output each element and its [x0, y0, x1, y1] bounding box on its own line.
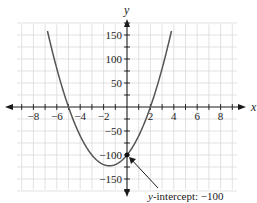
y-axis-down-arrow-icon — [124, 189, 130, 197]
parabola-curve — [47, 31, 171, 166]
y-tick-label: −150 — [99, 173, 122, 185]
x-tick-label: 4 — [171, 110, 177, 122]
axes — [5, 19, 246, 197]
x-tick-label: −2 — [98, 110, 110, 122]
x-tick-label: −4 — [74, 110, 86, 122]
x-axis-left-arrow-icon — [5, 104, 13, 110]
y-tick-label: −50 — [105, 125, 123, 137]
y-tick-label: 50 — [111, 77, 123, 89]
y-axis-label: y — [123, 3, 130, 17]
x-tick-label: −8 — [28, 110, 40, 122]
y-tick-label: 100 — [106, 53, 123, 65]
parabola-chart: −8−6−4−2246815010050−50−100−150 y-interc… — [0, 0, 257, 203]
y-tick-label: −100 — [99, 149, 122, 161]
y-intercept-point — [125, 153, 130, 158]
x-tick-label: 6 — [194, 110, 200, 122]
x-axis-right-arrow-icon — [238, 104, 246, 110]
annotation-leader-line — [130, 158, 158, 188]
x-axis-label: x — [250, 100, 257, 114]
x-tick-label: −6 — [51, 110, 63, 122]
x-tick-label: 8 — [218, 110, 224, 122]
y-tick-label: 150 — [106, 29, 123, 41]
annotation-label: y-intercept: −100 — [147, 190, 224, 202]
